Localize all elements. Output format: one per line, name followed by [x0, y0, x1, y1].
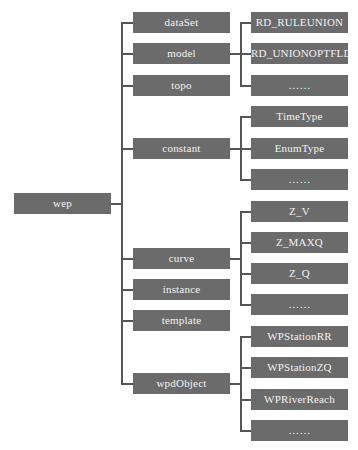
stub-constant-0 [240, 116, 251, 118]
node-model-ellipsis: …… [251, 75, 348, 96]
node-wep: wep [14, 193, 111, 214]
stub-model-0 [240, 22, 251, 24]
stub-instance [121, 289, 133, 291]
stub-model [121, 53, 133, 55]
node-wpstationrr: WPStationRR [251, 326, 348, 347]
trunk-level1 [121, 22, 123, 384]
stub-curve-1 [240, 242, 251, 244]
stub-curve-3 [240, 304, 251, 306]
stub-template [121, 320, 133, 322]
node-curve-ellipsis: …… [251, 294, 348, 315]
stub-model-1 [240, 53, 251, 55]
node-wpdobject-ellipsis: …… [251, 420, 348, 441]
stub-dataset [121, 22, 133, 24]
stub-wpdobject-1 [240, 367, 251, 369]
stub-wpdobject [121, 383, 133, 385]
connector-wpdobject [230, 383, 240, 385]
node-wpriverreach: WPRiverReach [251, 389, 348, 410]
stub-model-2 [240, 85, 251, 87]
node-z-maxq: Z_MAXQ [251, 232, 348, 253]
stub-wpdobject-3 [240, 430, 251, 432]
stub-constant [121, 148, 133, 150]
node-timetype: TimeType [251, 106, 348, 127]
node-rd-ruleunion: RD_RULEUNION [251, 12, 348, 33]
node-curve: curve [133, 248, 230, 269]
node-constant-ellipsis: …… [251, 169, 348, 190]
node-enumtype: EnumType [251, 138, 348, 159]
stub-wpdobject-2 [240, 399, 251, 401]
trunk-wpdobject [240, 336, 242, 432]
node-z-v: Z_V [251, 201, 348, 222]
stub-curve [121, 258, 133, 260]
node-wpstationzq: WPStationZQ [251, 357, 348, 378]
node-constant: constant [133, 138, 230, 159]
node-instance: instance [133, 279, 230, 300]
node-topo: topo [133, 75, 230, 96]
connector-root [111, 203, 121, 205]
node-template: template [133, 310, 230, 331]
node-dataset: dataSet [133, 12, 230, 33]
node-z-q: Z_Q [251, 263, 348, 284]
connector-constant [230, 148, 240, 150]
stub-curve-2 [240, 273, 251, 275]
node-model: model [133, 43, 230, 64]
connector-model [230, 53, 240, 55]
stub-curve-0 [240, 211, 251, 213]
stub-topo [121, 85, 133, 87]
stub-constant-1 [240, 148, 251, 150]
stub-constant-2 [240, 179, 251, 181]
node-rd-unionoptfld: RD_UNIONOPTFLD [251, 43, 348, 64]
stub-wpdobject-0 [240, 336, 251, 338]
trunk-curve [240, 211, 242, 306]
node-wpdobject: wpdObject [133, 373, 230, 394]
connector-curve [230, 258, 240, 260]
